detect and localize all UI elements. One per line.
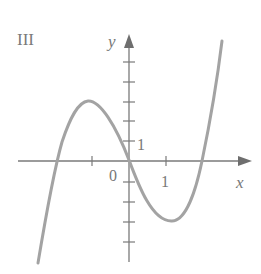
x-tick-label-1: 1	[161, 173, 169, 190]
panel-label: III	[17, 30, 34, 49]
x-axis-arrow-icon	[238, 156, 252, 166]
y-axis-label: y	[106, 32, 116, 51]
origin-label: 0	[109, 167, 117, 184]
cubic-curve	[38, 41, 222, 263]
y-tick-label-1: 1	[137, 136, 145, 153]
cubic-function-graph: III y x 0 1 1	[0, 0, 261, 274]
y-axis-arrow-icon	[124, 34, 134, 48]
x-axis-label: x	[235, 173, 244, 192]
